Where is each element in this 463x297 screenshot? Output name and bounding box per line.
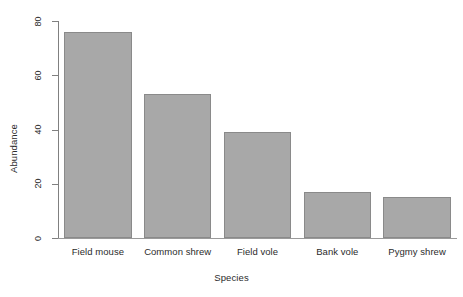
x-axis-category-label: Field mouse — [58, 246, 138, 257]
y-axis-tick — [52, 75, 58, 76]
x-axis-line — [58, 238, 457, 239]
bar — [64, 32, 131, 238]
bar — [144, 94, 211, 238]
y-axis-tick-label: 60 — [33, 65, 44, 85]
y-axis-tick — [52, 184, 58, 185]
y-axis-tick-label: 0 — [33, 228, 44, 248]
y-axis-title: Abundance — [0, 0, 26, 297]
y-axis-tick — [52, 21, 58, 22]
x-axis-category-label: Common shrew — [138, 246, 218, 257]
y-axis-tick-label: 20 — [33, 174, 44, 194]
y-axis-tick-label: 80 — [33, 11, 44, 31]
y-axis-tick-label: 40 — [33, 120, 44, 140]
bar-chart: Abundance 020406080 Field mouseCommon sh… — [0, 0, 463, 297]
x-axis-category-label: Bank vole — [297, 246, 377, 257]
y-axis-tick — [52, 130, 58, 131]
bar — [224, 132, 291, 238]
bar — [304, 192, 371, 238]
x-axis-category-label: Pygmy shrew — [377, 246, 457, 257]
y-axis-line — [58, 21, 59, 239]
bar — [383, 197, 450, 238]
y-axis-tick — [52, 238, 58, 239]
x-axis-category-label: Field vole — [218, 246, 298, 257]
x-axis-title: Species — [0, 272, 463, 283]
